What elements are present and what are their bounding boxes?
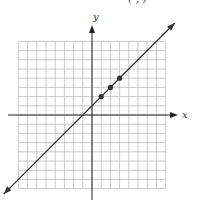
data-point xyxy=(108,85,113,90)
y-axis-arrow-icon xyxy=(89,25,95,33)
x-axis-arrow-icon xyxy=(170,112,178,118)
coordinate-plane: x y xyxy=(0,0,201,205)
x-axis-label: x xyxy=(182,109,188,120)
data-point xyxy=(99,94,104,99)
data-point xyxy=(117,76,122,81)
y-axis-label: y xyxy=(92,11,99,22)
function-line xyxy=(4,23,175,194)
